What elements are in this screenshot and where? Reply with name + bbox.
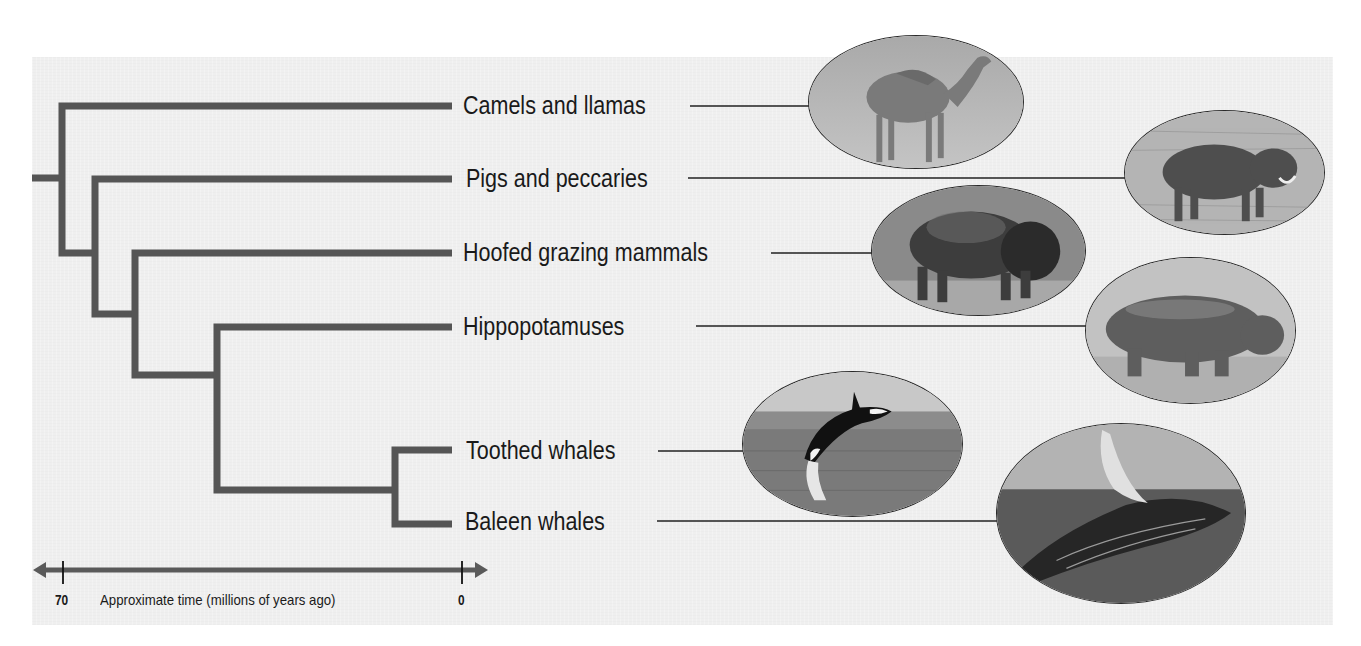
axis-label-70: 70 — [55, 592, 68, 608]
bison-image — [871, 185, 1086, 316]
orca-icon — [743, 372, 962, 516]
hippopotamus-image — [1085, 257, 1296, 404]
warthog-icon — [1125, 111, 1324, 234]
hippopotamus-icon — [1086, 258, 1295, 403]
humpback-whale-icon — [997, 424, 1245, 603]
axis-title: Approximate time (millions of years ago) — [100, 591, 335, 608]
taxon-label-baleen-whales: Baleen whales — [465, 509, 605, 534]
time-axis — [33, 561, 488, 584]
camel-icon — [809, 36, 1023, 168]
orca-image — [742, 371, 963, 517]
tree-branches — [32, 106, 452, 524]
axis-label-0: 0 — [458, 592, 465, 608]
humpback-whale-image — [996, 423, 1246, 604]
taxon-label-toothed-whales: Toothed whales — [466, 438, 615, 463]
taxon-label-hippopotamuses: Hippopotamuses — [463, 314, 624, 339]
camel-image — [808, 35, 1024, 169]
warthog-image — [1124, 110, 1325, 235]
bison-icon — [872, 186, 1085, 315]
taxon-label-camels: Camels and llamas — [463, 93, 646, 118]
taxon-label-pigs: Pigs and peccaries — [466, 166, 648, 191]
taxon-label-hoofed-grazers: Hoofed grazing mammals — [463, 240, 708, 265]
